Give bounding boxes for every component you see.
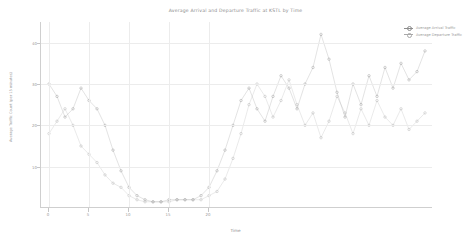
gridline-horizontal: [41, 84, 432, 85]
legend-swatch-icon: [404, 28, 413, 29]
series-line: [49, 80, 425, 202]
x-tick-label: 15: [156, 212, 180, 217]
gridline-horizontal: [41, 43, 432, 44]
legend-swatch-icon: [404, 34, 413, 35]
legend-label: Average Arrival Traffic: [416, 26, 456, 30]
x-tick-mark: [208, 208, 209, 212]
gridline-vertical: [169, 22, 170, 207]
gridline-vertical: [129, 22, 130, 207]
y-tick-mark: [37, 125, 41, 126]
y-tick-mark: [37, 43, 41, 44]
x-tick-label: 10: [116, 212, 140, 217]
y-tick-mark: [37, 167, 41, 168]
gridline-vertical: [89, 22, 90, 207]
chart-legend: Average Arrival TrafficAverage Departure…: [401, 24, 465, 39]
legend-item-2[interactable]: Average Departure Traffic: [404, 33, 462, 37]
gridline-horizontal: [41, 167, 432, 168]
x-tick-label: 0: [36, 212, 60, 217]
series-1: [48, 33, 427, 203]
series-canvas: [41, 22, 433, 208]
x-tick-label: 20: [196, 212, 220, 217]
legend-item-1[interactable]: Average Arrival Traffic: [404, 26, 462, 30]
gridline-vertical: [209, 22, 210, 207]
chart-title: Average Arrival and Departure Traffic at…: [0, 8, 471, 13]
x-tick-mark: [128, 208, 129, 212]
x-axis-label: Time: [0, 228, 471, 233]
plot-area: [40, 22, 432, 208]
gridline-horizontal: [41, 125, 432, 126]
series-line: [49, 34, 425, 201]
chart-figure: Average Arrival and Departure Traffic at…: [0, 0, 471, 243]
x-tick-mark: [48, 208, 49, 212]
gridline-vertical: [49, 22, 50, 207]
legend-label: Average Departure Traffic: [416, 33, 462, 37]
series-2: [48, 79, 427, 203]
y-axis-label: Average Traffic Count (per 15 minutes): [9, 32, 13, 182]
x-tick-label: 5: [76, 212, 100, 217]
y-tick-mark: [37, 84, 41, 85]
x-tick-mark: [88, 208, 89, 212]
x-tick-mark: [168, 208, 169, 212]
